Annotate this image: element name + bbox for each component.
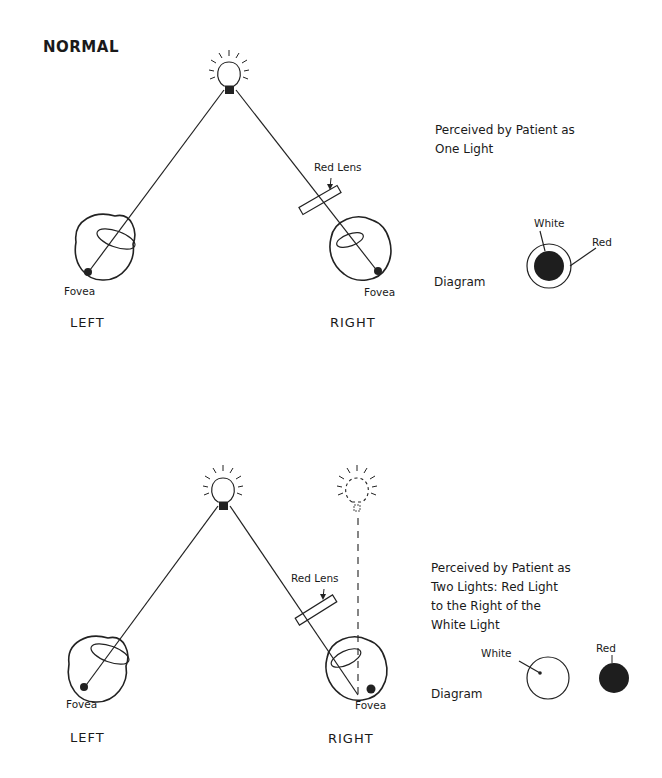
right-eye [326, 637, 387, 700]
diagram-label: Diagram [434, 275, 486, 289]
right-fovea-label: Fovea [364, 286, 395, 298]
left-fovea-label: Fovea [64, 285, 95, 297]
light-bulb-icon [209, 50, 249, 94]
red-lens-test-diagram: NORMAL Fovea L [0, 0, 662, 778]
red-lens-label: Red Lens [291, 572, 339, 584]
bottom-panel: Fovea LEFT Red Lens Fovea RIGHT Perceive… [66, 465, 629, 746]
left-eye-label: LEFT [70, 730, 105, 745]
perception-line-1: Perceived by Patient as [431, 561, 571, 575]
top-panel: NORMAL Fovea L [43, 38, 612, 330]
white-light-circle [527, 657, 569, 699]
perception-line-2: One Light [435, 142, 493, 156]
panel-title: NORMAL [43, 38, 119, 56]
red-light-dot [599, 663, 629, 693]
perception-line-1: Perceived by Patient as [435, 123, 575, 137]
right-eye-label: RIGHT [330, 315, 376, 330]
perception-line-4: White Light [431, 618, 500, 632]
right-eye-label: RIGHT [328, 731, 374, 746]
red-lens-label: Red Lens [314, 161, 362, 173]
perception-line-2: Two Lights: Red Light [430, 580, 558, 594]
red-label: Red [596, 642, 616, 654]
red-lens [295, 595, 337, 625]
left-fovea-label: Fovea [66, 698, 97, 710]
white-light-dot [534, 251, 564, 281]
white-label: White [481, 647, 512, 659]
right-fovea-label: Fovea [355, 699, 386, 711]
diagram-label: Diagram [431, 687, 483, 701]
left-eye [68, 636, 131, 702]
phantom-light-bulb-icon [337, 465, 377, 511]
white-label: White [534, 217, 565, 229]
perception-line-3: to the Right of the [431, 599, 541, 613]
light-ray-right [236, 90, 378, 272]
red-lens [299, 186, 341, 215]
light-ray-left [90, 90, 224, 270]
light-bulb-icon [203, 465, 243, 510]
red-label: Red [592, 236, 612, 248]
left-eye-label: LEFT [70, 315, 105, 330]
